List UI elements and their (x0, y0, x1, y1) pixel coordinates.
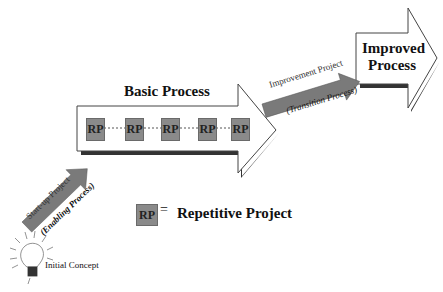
rp-box-5: RP (231, 118, 250, 141)
improved-process-line2: Process (362, 57, 422, 74)
legend-rp-symbol: RP (136, 204, 158, 226)
rp-box-1: RP (86, 118, 105, 141)
lightbulb-icon (10, 231, 53, 284)
rp-box-3: RP (161, 118, 180, 141)
rp-box-4: RP (198, 118, 217, 141)
rp-box-2: RP (125, 118, 144, 141)
legend-equals: = (160, 202, 168, 218)
legend-text: Repetitive Project (177, 205, 292, 222)
improved-process-title: Improved Process (362, 40, 422, 74)
basic-process-title: Basic Process (124, 83, 210, 100)
improved-process-line1: Improved (362, 40, 422, 57)
initial-concept-label: Initial Concept (45, 260, 99, 270)
